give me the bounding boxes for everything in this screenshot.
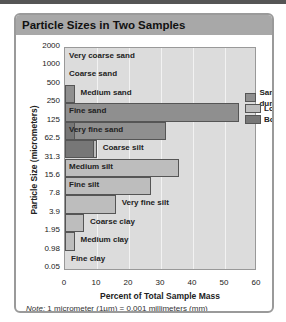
y-tick-label: 2000 xyxy=(26,41,60,50)
x-tick-label: 10 xyxy=(86,278,106,287)
bar-label: Coarse clay xyxy=(90,214,135,230)
x-tick-label: 20 xyxy=(118,278,138,287)
bar xyxy=(65,214,84,232)
bar-row: Fine silt xyxy=(65,177,255,195)
bar-label: Very fine silt xyxy=(122,195,169,211)
y-tick-label: 250 xyxy=(26,96,60,105)
x-axis-label: Percent of Total Sample Mass xyxy=(64,291,256,301)
x-tick-label: 50 xyxy=(214,278,234,287)
bar-label: Fine silt xyxy=(69,177,99,193)
y-tick-label: 7.8 xyxy=(26,188,60,197)
legend-label: Loess xyxy=(264,103,274,114)
note-text: 1 micrometer (1µm) = 0.001 millimeters (… xyxy=(47,304,207,313)
bar-row: Coarse sand xyxy=(65,66,255,84)
bar-both xyxy=(65,140,94,158)
y-tick-label: 0.98 xyxy=(26,244,60,253)
y-tick-label: 125 xyxy=(26,115,60,124)
x-tick-label: 60 xyxy=(246,278,266,287)
x-tick-label: 40 xyxy=(182,278,202,287)
plot-area: Sand dune Loess Both Very coarse sandCoa… xyxy=(64,47,256,270)
chart-panel: Particle Sizes in Two Samples Particle S… xyxy=(14,13,274,313)
bar-label: Coarse sand xyxy=(69,66,117,82)
bar xyxy=(65,232,75,250)
bar-label: Fine clay xyxy=(71,251,105,267)
y-tick-label: 1.95 xyxy=(26,225,60,234)
bar-row: Very fine sand xyxy=(65,122,255,140)
bar-row: Medium silt xyxy=(65,159,255,177)
legend-label: Both xyxy=(264,114,274,125)
y-tick-label: 0.05 xyxy=(26,262,60,271)
bar-row: Medium sand xyxy=(65,85,255,103)
bar-row: Fine clay xyxy=(65,251,255,269)
bar-label: Medium clay xyxy=(81,232,129,248)
bar-row: Very coarse sand xyxy=(65,48,255,66)
y-tick-label: 15.6 xyxy=(26,170,60,179)
y-tick-label: 62.5 xyxy=(26,133,60,142)
bar-label: Very fine sand xyxy=(69,122,123,138)
bar-label: Coarse silt xyxy=(103,140,144,156)
note: Note: 1 micrometer (1µm) = 0.001 millime… xyxy=(26,304,208,313)
x-tick-label: 30 xyxy=(150,278,170,287)
y-tick-label: 31.3 xyxy=(26,152,60,161)
bar-label: Fine sand xyxy=(69,103,106,119)
bar-row: Medium clay xyxy=(65,232,255,250)
bar xyxy=(65,85,75,103)
bar-label: Very coarse sand xyxy=(69,48,135,64)
x-tick-label: 0 xyxy=(54,278,74,287)
chart-title: Particle Sizes in Two Samples xyxy=(16,15,272,35)
bar-row: Coarse clay xyxy=(65,214,255,232)
bar-label: Medium sand xyxy=(81,85,132,101)
top-border xyxy=(0,0,286,4)
bar-row: Coarse silt xyxy=(65,140,255,158)
note-label: Note: xyxy=(26,304,45,313)
bar-row: Fine sand xyxy=(65,103,255,121)
bar xyxy=(65,195,116,213)
bar-label: Medium silt xyxy=(69,159,113,175)
y-tick-label: 1000 xyxy=(26,59,60,68)
y-tick-label: 500 xyxy=(26,78,60,87)
bar-row: Very fine silt xyxy=(65,195,255,213)
y-tick-label: 3.9 xyxy=(26,207,60,216)
